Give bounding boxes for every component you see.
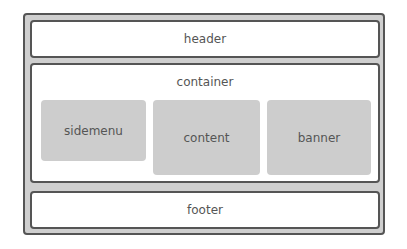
content-block: content (153, 100, 260, 175)
header-block: header (30, 20, 380, 58)
banner-block: banner (267, 100, 371, 175)
content-label: content (153, 131, 260, 145)
sidemenu-block: sidemenu (41, 100, 146, 161)
header-label: header (32, 32, 378, 46)
banner-label: banner (267, 131, 371, 145)
footer-label: footer (32, 203, 378, 217)
footer-block: footer (30, 191, 380, 229)
container-label: container (32, 75, 378, 89)
sidemenu-label: sidemenu (41, 124, 146, 138)
